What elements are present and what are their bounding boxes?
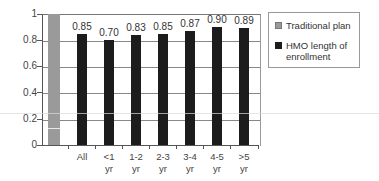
bar-hmo-all (77, 34, 87, 145)
legend: Traditional plan HMO length of enrollmen… (268, 12, 360, 68)
scan-artifact-line (0, 113, 379, 114)
gridline-0-8 (43, 41, 260, 42)
y-tick-label: 0.8 (7, 35, 37, 45)
x-label-3-4yr: 3-4yr (177, 151, 203, 175)
data-label: 0.87 (175, 19, 205, 29)
y-tick (37, 40, 42, 41)
x-tick (149, 145, 150, 149)
data-label: 0.89 (229, 16, 259, 26)
gray-swatch-icon (275, 22, 282, 29)
y-tick (37, 119, 42, 120)
y-tick (37, 66, 42, 67)
x-label-2-3yr: 2-3yr (150, 151, 176, 175)
data-label: 0.90 (202, 15, 232, 25)
bar-hmo-1-2yr (131, 35, 141, 145)
x-tick (230, 145, 231, 149)
gridline-0-2 (43, 120, 260, 121)
y-tick (37, 92, 42, 93)
x-label-lt1yr: <1yr (96, 151, 122, 175)
x-tick (68, 145, 69, 149)
y-tick-label: 0.2 (7, 114, 37, 124)
bar-chart: 0 0.2 0.4 0.6 0.8 1 0.85 0.70 0.83 0.85 … (0, 0, 379, 181)
y-tick-label: 1 (7, 9, 37, 19)
bar-hmo-lt1yr (104, 40, 114, 145)
x-label-1-2yr: 1-2yr (123, 151, 149, 175)
gridline-0-6 (43, 67, 260, 68)
bar-traditional-plan (48, 14, 60, 145)
bar-hmo-gt5yr (239, 28, 249, 145)
bar-highlight (48, 128, 60, 129)
plot-area (42, 14, 261, 146)
black-swatch-icon (275, 42, 282, 49)
y-tick-label: 0.6 (7, 61, 37, 71)
x-axis (37, 145, 259, 146)
x-tick (176, 145, 177, 149)
x-tick (122, 145, 123, 149)
x-label-4-5yr: 4-5yr (204, 151, 230, 175)
y-tick-label: 0.4 (7, 88, 37, 98)
data-label: 0.85 (67, 22, 97, 32)
x-tick (95, 145, 96, 149)
data-label: 0.70 (94, 28, 124, 38)
y-tick (37, 14, 42, 15)
x-label-gt5yr: >5yr (231, 151, 257, 175)
x-tick (258, 145, 259, 149)
data-label: 0.83 (121, 23, 151, 33)
y-tick-label: 0 (7, 140, 37, 150)
bar-hmo-4-5yr (212, 27, 222, 145)
bar-hmo-3-4yr (185, 31, 195, 145)
bar-hmo-2-3yr (158, 34, 168, 145)
x-label-all: All (69, 151, 95, 163)
gridline-0-4 (43, 93, 260, 94)
data-label: 0.85 (148, 22, 178, 32)
x-tick (203, 145, 204, 149)
